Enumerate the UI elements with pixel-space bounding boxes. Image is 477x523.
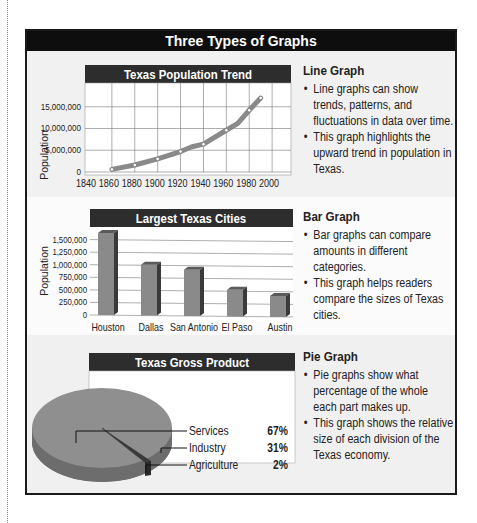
pie-graph-description: Pie Graph Pie graphs show what percentag… <box>303 349 454 463</box>
line-chart-y-tick: 5,000,000 <box>45 145 81 156</box>
line-graph-heading: Line Graph <box>303 63 454 79</box>
bar-chart: Largest Texas Cities 0250,000500,000750,… <box>27 197 299 335</box>
bar-chart-y-tick: 500,000 <box>59 284 87 295</box>
bar-chart-y-tick: 1,250,000 <box>52 246 87 257</box>
line-chart-data-point <box>225 128 229 132</box>
line-chart: Texas Population Trend 05,000,00010,000,… <box>27 51 299 197</box>
bar-graph-description: Bar Graph Bar graphs can compare amounts… <box>303 209 454 323</box>
bar-graph-section: Largest Texas Cities 0250,000500,000750,… <box>27 197 455 335</box>
line-chart-data-point <box>179 150 183 154</box>
pie-chart: Texas Gross Product Services67%Industry3… <box>27 335 299 493</box>
bar-chart-y-tick: 750,000 <box>59 272 87 283</box>
line-chart-x-tick: 1980 <box>236 177 256 189</box>
line-graph-description: Line Graph Line graphs can show trends, … <box>303 63 454 177</box>
bar-chart-y-tick: 1,000,000 <box>52 259 87 270</box>
bar-chart-y-tick: 0 <box>83 309 87 320</box>
line-graph-bullet: This graph highlights the upward trend i… <box>303 129 454 177</box>
pie-legend-label: Agriculture <box>189 458 238 471</box>
page-title: Three Types of Graphs <box>27 31 455 51</box>
line-graph-section: Texas Population Trend 05,000,00010,000,… <box>27 51 455 197</box>
bar-graph-heading: Bar Graph <box>303 209 454 225</box>
line-chart-x-tick: 1880 <box>122 177 142 189</box>
line-chart-title: Texas Population Trend <box>124 67 252 82</box>
line-chart-x-tick: 1940 <box>190 177 210 189</box>
bar <box>141 265 157 316</box>
bar-chart-y-axis-label: Population <box>38 246 50 296</box>
page-margin-dotted-line <box>7 0 8 523</box>
pie-chart-title: Texas Gross Product <box>135 355 249 370</box>
pie-legend-label: Industry <box>189 441 226 454</box>
line-chart-y-tick: 15,000,000 <box>41 101 81 112</box>
bar-chart-y-tick: 1,500,000 <box>52 234 87 245</box>
bar <box>184 270 200 316</box>
line-graph-bullet: Line graphs can show trends, patterns, a… <box>303 81 454 129</box>
line-chart-data-point <box>259 96 263 100</box>
line-chart-x-tick: 2000 <box>259 177 279 189</box>
bar-chart-x-tick: El Paso <box>222 321 253 333</box>
pie-legend-value: 31% <box>267 441 288 454</box>
line-chart-data-point <box>156 157 160 161</box>
bar-chart-title: Largest Texas Cities <box>136 211 247 226</box>
line-chart-x-tick: 1960 <box>213 177 233 189</box>
graphs-panel: Three Types of Graphs Texas Population T… <box>25 29 457 495</box>
pie-graph-bullet: Pie graphs show what percentage of the w… <box>303 367 454 415</box>
line-chart-data-point <box>133 163 137 167</box>
pie-legend-label: Services <box>189 424 229 437</box>
line-chart-x-tick: 1860 <box>99 177 119 189</box>
bar-graph-bullet: Bar graphs can compare amounts in differ… <box>303 227 454 275</box>
line-chart-data-point <box>110 168 114 172</box>
bar-chart-x-tick: Austin <box>268 321 293 333</box>
line-chart-x-tick: 1900 <box>145 177 165 189</box>
line-chart-x-tick: 1840 <box>76 177 96 189</box>
line-chart-y-axis-label: Population <box>38 130 50 180</box>
bar-chart-x-tick: San Antonio <box>170 321 218 333</box>
pie-graph-section: Texas Gross Product Services67%Industry3… <box>27 335 455 493</box>
line-chart-data-point <box>247 108 251 112</box>
line-chart-data-point <box>202 142 206 146</box>
bar-chart-x-tick: Houston <box>91 321 124 333</box>
pie-legend-value: 2% <box>273 458 288 471</box>
line-chart-x-tick: 1920 <box>168 177 188 189</box>
bar-chart-y-tick: 250,000 <box>59 297 87 308</box>
line-chart-y-tick: 0 <box>77 166 82 177</box>
pie-legend-value: 67% <box>267 424 288 437</box>
bar-chart-x-tick: Dallas <box>139 321 164 333</box>
bar-graph-bullet: This graph helps readers compare the siz… <box>303 275 454 323</box>
bar <box>98 233 114 315</box>
pie-graph-bullet: This graph shows the relative size of ea… <box>303 415 454 463</box>
pie-graph-heading: Pie Graph <box>303 349 454 365</box>
bar <box>227 290 243 317</box>
bar <box>270 296 286 317</box>
